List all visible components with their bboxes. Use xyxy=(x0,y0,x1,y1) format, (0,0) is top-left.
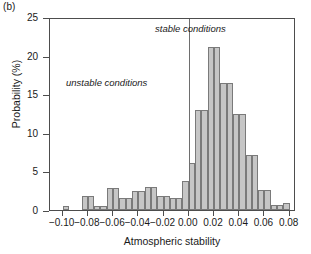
x-axis-tick xyxy=(62,211,63,216)
x-axis-tick xyxy=(112,211,113,216)
figure-panel-b: (b) Probability (%) 0510152025 −0.10−0.0… xyxy=(0,0,311,254)
x-axis-tick-label: −0.04 xyxy=(125,218,150,228)
y-axis-tick-label: 10 xyxy=(27,129,38,139)
histogram-bars xyxy=(50,19,294,210)
x-axis-tick-label: −0.08 xyxy=(74,218,99,228)
y-axis-tick-label: 5 xyxy=(32,167,38,177)
x-axis-tick xyxy=(163,211,164,216)
y-axis-title: Probability (%) xyxy=(10,24,22,164)
panel-label: (b) xyxy=(3,1,16,12)
zero-reference-line xyxy=(189,19,190,210)
x-axis-tick xyxy=(238,211,239,216)
x-axis-tick xyxy=(87,211,88,216)
x-axis-tick xyxy=(188,211,189,216)
x-axis-tick xyxy=(213,211,214,216)
x-axis-tick-label: 0.00 xyxy=(178,218,197,228)
x-axis-tick-label: 0.02 xyxy=(203,218,222,228)
x-axis-tick-label: −0.02 xyxy=(150,218,175,228)
plot-area xyxy=(49,18,295,211)
x-axis-tick-label: 0.08 xyxy=(279,218,298,228)
y-axis-tick-label: 0 xyxy=(32,206,38,216)
y-axis-tick xyxy=(43,211,49,212)
x-axis-tick-label: −0.10 xyxy=(49,218,74,228)
y-axis-tick-label: 20 xyxy=(27,52,38,62)
y-axis-tick-label: 25 xyxy=(27,13,38,23)
histogram-bar xyxy=(283,203,289,210)
x-axis-tick-label: −0.06 xyxy=(99,218,124,228)
annotation-stable-conditions: stable conditions xyxy=(155,23,226,34)
x-axis-tick-label: 0.06 xyxy=(254,218,273,228)
x-axis-title: Atmospheric stability xyxy=(49,235,295,247)
x-axis-tick xyxy=(263,211,264,216)
annotation-unstable-conditions: unstable conditions xyxy=(66,77,147,88)
histogram-bar xyxy=(63,206,69,210)
x-axis-tick xyxy=(289,211,290,216)
x-axis-tick-label: 0.04 xyxy=(228,218,247,228)
y-axis-tick-label: 15 xyxy=(27,90,38,100)
x-axis-tick xyxy=(137,211,138,216)
